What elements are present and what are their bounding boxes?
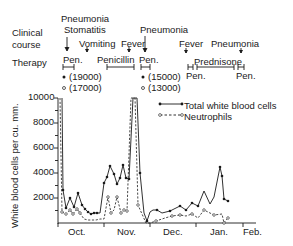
series-total-wbc	[62, 98, 228, 221]
chart-svg	[0, 0, 293, 246]
series-neutrophils	[60, 98, 228, 223]
event-arrows	[65, 36, 243, 53]
legend-samples	[159, 103, 184, 117]
series-total-points	[62, 164, 230, 223]
therapy-bars	[63, 64, 244, 70]
